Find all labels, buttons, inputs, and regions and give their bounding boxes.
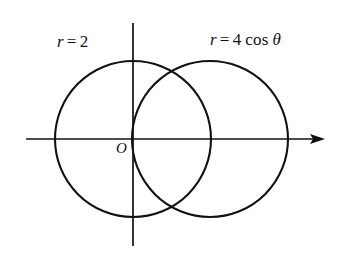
origin-label: O (116, 141, 127, 156)
label-right-angle-symbol: θ (273, 30, 282, 49)
label-curve-r-equals-4-cos-theta: r=4cosθ (210, 31, 281, 48)
label-right-r-symbol: r (210, 30, 217, 49)
label-curve-r-equals-2: r=2 (57, 33, 88, 50)
polar-diagram-figure: r=2 r=4cosθ O (0, 0, 341, 261)
label-right-function: cos (245, 30, 268, 49)
label-left-r-symbol: r (57, 32, 64, 51)
label-right-coefficient: 4 (233, 30, 242, 49)
label-right-equals: = (220, 30, 230, 49)
diagram-canvas (0, 0, 341, 261)
label-left-equals: = (67, 32, 77, 51)
label-left-value: 2 (80, 32, 89, 51)
